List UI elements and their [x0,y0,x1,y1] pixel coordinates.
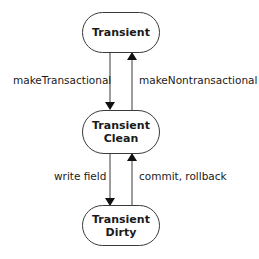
state-label-line2: Dirty [92,226,150,239]
transition-label-write-field: write field [54,170,106,182]
state-label-line2: Clean [92,132,150,145]
state-transient-dirty: Transient Dirty [82,205,160,246]
transition-label-make-nontransactional: makeNontransactional [139,74,257,86]
state-label: Transient [92,213,150,226]
transition-label-make-transactional: makeTransactional [13,74,111,86]
state-label: Transient [92,119,150,132]
state-label: Transient [92,26,150,39]
transition-label-commit-rollback: commit, rollback [139,170,227,182]
state-transient: Transient [82,12,160,53]
state-transient-clean: Transient Clean [82,110,160,154]
